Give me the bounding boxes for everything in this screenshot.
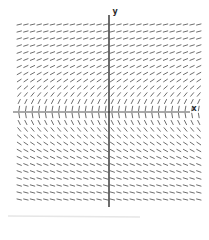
slope-segment [151,92,154,96]
slope-segment [23,59,28,61]
slope-segment [123,72,128,75]
slope-segment [70,135,74,139]
slope-segment [163,31,168,32]
slope-segment [156,38,161,39]
slope-segment [150,24,155,25]
slope-segment [110,192,115,193]
slope-segment [190,24,195,25]
slope-segment [50,185,55,186]
slope-segment [64,142,68,145]
slope-segment [17,86,21,90]
slope-segment [150,65,155,67]
slope-segment [116,31,121,32]
slope-segment [50,178,55,180]
slope-segment [110,142,114,145]
slope-segment [111,92,114,96]
slope-segment [183,45,188,47]
slope-segment [17,65,22,67]
slope-segment [123,178,128,180]
slope-segment [37,86,41,90]
slope-segment [136,52,141,54]
slope-segment [117,86,121,90]
slope-segment [43,178,48,180]
slope-segment [196,185,201,186]
slope-segment [90,79,94,82]
slope-segment [130,185,135,186]
slope-segment [23,45,28,47]
slope-segment [70,86,74,90]
slope-segment [116,38,121,39]
slope-segment [156,164,161,166]
slope-segment [150,149,155,152]
slope-segment [124,135,128,139]
slope-segment [190,192,195,193]
slope-segment [136,31,141,32]
slope-segment [43,185,48,186]
slope-segment [30,142,34,145]
slope-segment [158,120,160,125]
slope-segment [190,127,193,131]
slope-segment [45,120,47,125]
slope-segment [130,79,134,82]
slope-segment [143,192,148,193]
slope-segment [37,135,41,139]
slope-segment [64,135,68,139]
slope-segment [50,72,55,75]
slope-segment [97,72,102,75]
slope-segment [51,127,54,131]
slope-segment [177,92,180,96]
slope-segment [190,72,195,75]
slope-segment [78,120,80,125]
slope-segment [83,142,87,145]
slope-segment [117,79,121,82]
slope-segment [77,86,81,90]
slope-segment [143,45,148,47]
slope-segment [77,135,81,139]
slope-segment [70,199,75,200]
slope-segment [17,156,22,158]
slope-segment [157,92,160,96]
slope-segment [57,79,61,82]
slope-segment [110,79,114,82]
slope-segment [191,120,193,125]
slope-segment [37,72,42,75]
slope-segment [24,142,28,145]
slope-segment [197,135,201,139]
slope-segment [24,86,28,90]
slope-segment [110,185,115,186]
slope-segment [110,45,115,47]
slope-segment [196,24,201,25]
slope-segment [130,164,135,166]
slope-segment [98,120,100,125]
slope-segment [176,171,181,173]
slope-segment [18,127,21,131]
slope-segment [130,156,135,158]
slope-segment [57,38,62,39]
slope-segment [157,135,161,139]
slope-segment [17,45,22,47]
slope-segment [198,99,200,104]
slope-segment [183,185,188,186]
slope-segment [117,135,121,139]
slope-segment [130,178,135,180]
slope-segment [170,185,175,186]
slope-segment [23,171,28,173]
slope-segment [24,135,28,139]
slope-segment [37,149,42,152]
slope-segment [136,156,141,158]
slope-segment [43,164,48,166]
slope-segment [177,135,181,139]
slope-segment [150,171,155,173]
slope-segment [116,199,121,200]
slope-segment [83,65,88,67]
slope-segment [77,72,82,75]
slope-segment [50,31,55,32]
slope-segment [39,113,40,118]
slope-segment [97,92,100,96]
slope-segment [196,59,201,61]
slope-segment [196,164,201,166]
slope-segment [104,86,108,90]
slope-segment [136,199,141,200]
slope-segment [83,31,88,32]
slope-segment [150,45,155,47]
